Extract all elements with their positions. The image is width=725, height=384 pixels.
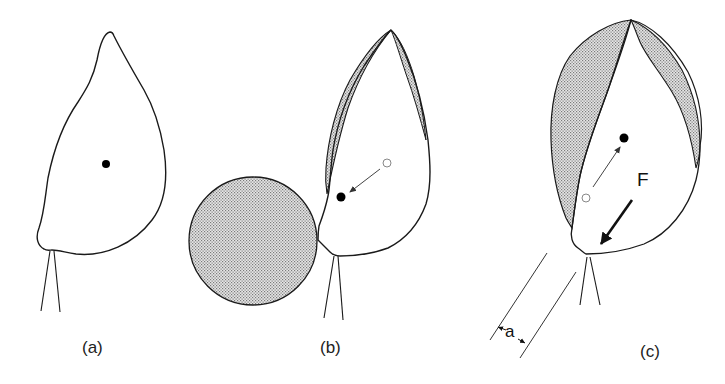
diagram-canvas: [0, 0, 725, 384]
panel-a: [37, 32, 166, 312]
panel-label-c: (c): [640, 342, 660, 362]
force-arrow: [601, 200, 632, 244]
stalk-right: [338, 256, 343, 320]
pressing-sphere: [189, 177, 317, 305]
original-center-marker: [582, 194, 590, 202]
stalk-left: [580, 257, 587, 305]
panel-label-b: (b): [320, 338, 341, 358]
seed-outline: [37, 32, 166, 254]
panel-label-a: (a): [82, 338, 103, 358]
seed-coat-shading-right: [391, 30, 426, 140]
panel-b: [189, 30, 430, 320]
stalk-right: [54, 251, 60, 312]
seed-coat-shading-left: [326, 30, 391, 194]
original-center-marker: [383, 159, 391, 167]
stalk-left: [324, 256, 334, 318]
seed-outline: [318, 30, 430, 256]
force-label: F: [637, 169, 649, 191]
shifted-center-dot: [620, 134, 629, 143]
stalk-left: [41, 251, 50, 311]
dimension-line-right: [520, 272, 576, 358]
center-of-mass-dot: [102, 160, 110, 168]
distance-label: a: [505, 322, 514, 342]
seed-coat-shading-left: [551, 20, 631, 228]
stalk-right: [590, 257, 600, 305]
dimension-tick-right: [518, 339, 525, 343]
displacement-arrow: [350, 169, 380, 192]
displacement-arrow: [593, 147, 620, 187]
shifted-center-dot: [337, 193, 346, 202]
panel-c: [490, 20, 702, 358]
